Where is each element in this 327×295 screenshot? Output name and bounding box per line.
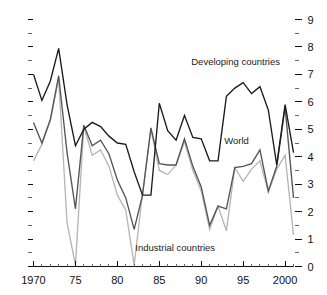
x-axis (34, 261, 294, 267)
series-line-industrial-countries (34, 79, 294, 266)
y-tick-label-4: 4 (308, 151, 314, 163)
x-tick-label-1970: 1970 (21, 274, 45, 286)
y-tick-label-6: 6 (308, 96, 314, 108)
chart-figure: 197075808590952000 0123456789 Developing… (0, 0, 327, 295)
series-label-industrial-countries: Industrial countries (135, 242, 215, 253)
x-tick-label-95: 95 (237, 274, 249, 286)
series-lines-group (34, 48, 294, 265)
y-tick-label-0: 0 (308, 261, 314, 273)
y-tick-label-2: 2 (308, 206, 314, 218)
x-tick-label-75: 75 (69, 274, 81, 286)
line-chart-svg: 197075808590952000 0123456789 Developing… (0, 0, 327, 295)
x-tick-label-90: 90 (195, 274, 207, 286)
right-y-axis (295, 20, 302, 267)
y-tick-label-8: 8 (308, 41, 314, 53)
series-line-world (34, 76, 294, 230)
x-tick-label-80: 80 (111, 274, 123, 286)
y-tick-label-7: 7 (308, 68, 314, 80)
left-y-axis-ticks (28, 20, 33, 267)
series-label-world: World (224, 135, 249, 146)
y-tick-label-5: 5 (308, 123, 314, 135)
x-tick-label-85: 85 (153, 274, 165, 286)
y-tick-label-9: 9 (308, 14, 314, 26)
series-label-developing-countries: Developing countries (191, 56, 280, 67)
x-tick-label-2000: 2000 (273, 274, 297, 286)
y-tick-label-1: 1 (308, 233, 314, 245)
x-axis-tick-labels: 197075808590952000 (21, 274, 297, 286)
y-tick-label-3: 3 (308, 178, 314, 190)
y-axis-tick-labels: 0123456789 (308, 14, 314, 273)
